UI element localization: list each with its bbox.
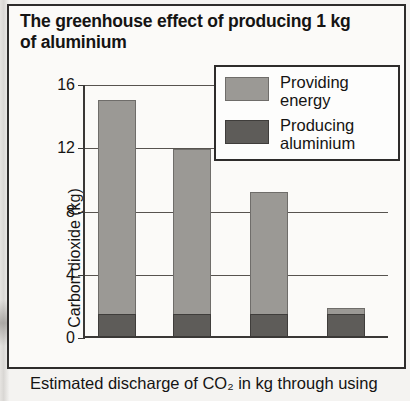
- page-gutter-smudge: [0, 300, 7, 346]
- bar-natural-gas[interactable]: [250, 192, 288, 336]
- legend-entry-providing-energy[interactable]: Providing energy: [225, 74, 349, 110]
- y-axis-tick-labels: 16 12 8 4 0 Carbon dioxide (kg): [39, 85, 75, 338]
- y-tickmark-16: [78, 85, 85, 86]
- y-tick-16: 16: [41, 76, 75, 94]
- bar-natural-gas-providing-energy[interactable]: [250, 192, 288, 314]
- bar-hydro-power[interactable]: [327, 308, 365, 336]
- chart-title: The greenhouse effect of producing 1 kg …: [20, 11, 360, 52]
- figure-caption: Estimated discharge of CO₂ in kg through…: [30, 374, 402, 400]
- legend-swatch-producing-aluminium: [225, 120, 269, 144]
- legend-entry-producing-aluminium[interactable]: Producing aluminium: [225, 117, 355, 153]
- y-tickmark-8: [78, 212, 85, 213]
- bar-natural-gas-producing-aluminium[interactable]: [250, 314, 288, 336]
- y-tickmark-0: [78, 338, 85, 339]
- legend-swatch-providing-energy: [225, 77, 269, 101]
- bar-coal-providing-energy[interactable]: [98, 100, 136, 314]
- bar-coal[interactable]: [98, 100, 136, 336]
- legend-label-providing-energy: Providing energy: [280, 74, 349, 110]
- bar-coal-producing-aluminium[interactable]: [98, 314, 136, 336]
- y-axis-title: Carbon dioxide (kg): [66, 151, 84, 366]
- bar-oil-producing-aluminium[interactable]: [173, 314, 211, 336]
- bar-hydro-power-producing-aluminium[interactable]: [327, 314, 365, 336]
- chart-figure-card: The greenhouse effect of producing 1 kg …: [7, 4, 406, 369]
- chart-legend: Providing energy Producing aluminium: [214, 65, 400, 161]
- y-tickmark-12: [78, 148, 85, 149]
- scanned-page: The greenhouse effect of producing 1 kg …: [0, 0, 410, 401]
- legend-label-producing-aluminium: Producing aluminium: [280, 117, 355, 153]
- bar-oil[interactable]: [173, 149, 211, 336]
- y-tickmark-4: [78, 275, 85, 276]
- bar-oil-providing-energy[interactable]: [173, 149, 211, 314]
